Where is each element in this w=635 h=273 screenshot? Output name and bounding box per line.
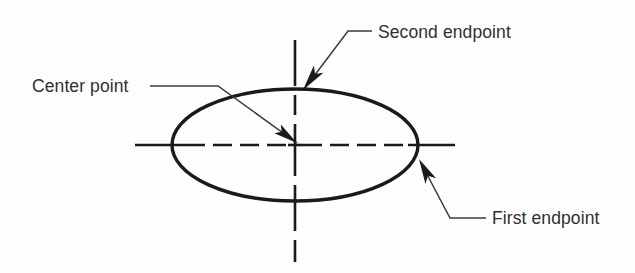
second-endpoint-label: Second endpoint — [378, 22, 511, 42]
diagram-canvas: Center point Second endpoint First endpo… — [0, 0, 635, 273]
first-endpoint-label: First endpoint — [492, 208, 599, 228]
ellipse-diagram: Center point Second endpoint First endpo… — [0, 0, 635, 273]
center-point-label: Center point — [32, 76, 129, 96]
canvas-background — [0, 0, 635, 273]
